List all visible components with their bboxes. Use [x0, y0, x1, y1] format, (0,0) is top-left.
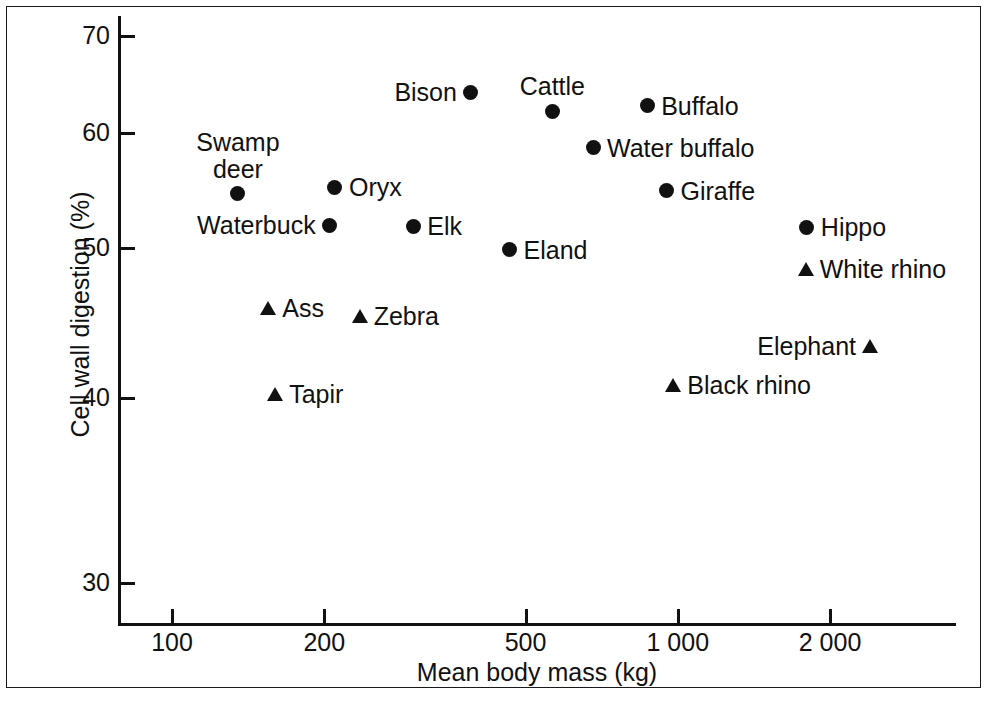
- point-label-tapir: Tapir: [289, 381, 343, 407]
- triangle-marker-icon-tapir: [267, 387, 283, 401]
- point-label-hippo: Hippo: [821, 214, 886, 240]
- circle-marker-icon-elk: [406, 219, 421, 234]
- y-tick-label-30: 30: [58, 570, 110, 595]
- x-axis-title: Mean body mass (kg): [118, 658, 956, 687]
- circle-marker-icon-water-buffalo: [586, 140, 601, 155]
- point-label-ass: Ass: [282, 295, 324, 321]
- y-tick-30: [121, 582, 135, 585]
- point-label-buffalo: Buffalo: [661, 93, 738, 119]
- circle-marker-icon-swamp-deer: [230, 186, 245, 201]
- x-tick-label-200: 200: [264, 630, 384, 655]
- y-axis-title: Cell wall digestion (%): [66, 115, 95, 515]
- circle-marker-icon-bison: [463, 85, 478, 100]
- circle-marker-icon-giraffe: [659, 183, 674, 198]
- point-label-bison: Bison: [394, 79, 457, 105]
- x-tick-2000: [829, 609, 832, 623]
- circle-marker-icon-buffalo: [640, 98, 655, 113]
- y-tick-60: [121, 132, 135, 135]
- circle-marker-icon-cattle: [545, 104, 560, 119]
- plot-axes: 7060504030 1002005001 0002 000 Cell wall…: [0, 0, 993, 702]
- point-label-white-rhino: White rhino: [820, 256, 946, 282]
- x-tick-500: [525, 609, 528, 623]
- x-tick-label-2000: 2 000: [770, 630, 890, 655]
- triangle-marker-icon-zebra: [352, 309, 368, 323]
- triangle-marker-icon-white-rhino: [798, 262, 814, 276]
- x-axis-line: [118, 623, 956, 626]
- point-label-swamp-deer: Swampdeer: [196, 129, 279, 182]
- x-tick-1000: [677, 609, 680, 623]
- circle-marker-icon-oryx: [327, 180, 342, 195]
- figure-page: 7060504030 1002005001 0002 000 Cell wall…: [0, 0, 993, 702]
- x-tick-label-100: 100: [112, 630, 232, 655]
- point-label-elephant: Elephant: [757, 333, 856, 359]
- x-tick-label-1000: 1 000: [618, 630, 738, 655]
- circle-marker-icon-eland: [502, 242, 517, 257]
- y-tick-50: [121, 247, 135, 250]
- point-label-eland: Eland: [524, 237, 588, 263]
- point-label-zebra: Zebra: [374, 303, 439, 329]
- circle-marker-icon-hippo: [799, 220, 814, 235]
- point-label-cattle: Cattle: [520, 73, 585, 99]
- x-tick-100: [171, 609, 174, 623]
- triangle-marker-icon-black-rhino: [665, 378, 681, 392]
- point-label-oryx: Oryx: [349, 174, 402, 200]
- x-tick-label-500: 500: [466, 630, 586, 655]
- y-tick-label-70: 70: [58, 23, 110, 48]
- x-tick-200: [323, 609, 326, 623]
- y-axis-line: [118, 16, 121, 626]
- point-label-elk: Elk: [427, 213, 462, 239]
- triangle-marker-icon-ass: [260, 301, 276, 315]
- point-label-black-rhino: Black rhino: [687, 372, 811, 398]
- point-label-giraffe: Giraffe: [680, 178, 755, 204]
- y-tick-40: [121, 397, 135, 400]
- circle-marker-icon-waterbuck: [322, 218, 337, 233]
- triangle-marker-icon-elephant: [862, 339, 878, 353]
- point-label-water-buffalo: Water buffalo: [607, 135, 754, 161]
- point-label-waterbuck: Waterbuck: [197, 212, 316, 238]
- y-tick-70: [121, 35, 135, 38]
